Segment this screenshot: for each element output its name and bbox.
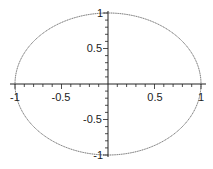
y-tick-label: -0.5 — [83, 113, 102, 125]
y-tick-label: -1 — [93, 149, 103, 161]
y-tick-label: 0.5 — [87, 42, 102, 54]
x-tick-label: 0.5 — [147, 91, 162, 103]
x-tick-label: -0.5 — [52, 91, 71, 103]
x-tick-label: 1 — [198, 91, 204, 103]
y-tick-label: 1 — [97, 7, 103, 19]
circle-plot: -1 -0.5 0.5 1 1 0.5 -0.5 -1 — [0, 0, 213, 169]
x-tick-label: -1 — [10, 91, 20, 103]
